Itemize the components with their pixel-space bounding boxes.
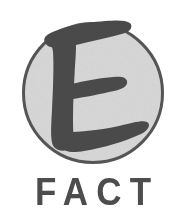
logo-root: FACT xyxy=(0,0,186,223)
circular-e-emblem xyxy=(0,0,186,175)
fact-wordmark: FACT xyxy=(0,172,186,212)
fact-wordmark-text: FACT xyxy=(27,173,160,211)
emblem-svg xyxy=(0,0,186,175)
